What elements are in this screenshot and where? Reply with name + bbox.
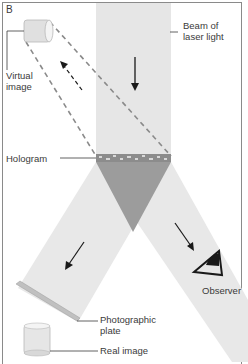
panel-letter: B [6,4,13,15]
laser-beam [96,3,171,155]
label-observer: Observer [202,285,241,296]
label-laser-beam: Beam of laser light [183,20,224,42]
virtual-direction-arrow [60,61,82,90]
label-virtual-image: Virtual image [6,70,33,92]
virtual-image-object [24,20,53,42]
label-hologram: Hologram [6,153,47,164]
label-photographic-plate: Photographic plate [100,314,156,336]
label-real-image: Real image [100,345,148,356]
real-image-object [24,323,50,356]
